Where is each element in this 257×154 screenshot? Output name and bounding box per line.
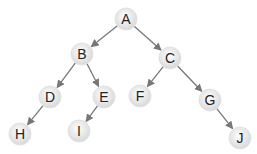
node-label: D [45,89,55,105]
tree-diagram: ABCDEFGHIJ [0,0,257,154]
tree-node-g: G [199,89,221,111]
node-label: I [77,123,81,139]
edge-e-i-arrow [86,106,97,121]
tree-node-d: D [39,86,61,108]
edge-d-h-arrow [28,106,44,125]
tree-node-j: J [229,127,251,149]
node-label: F [136,88,145,104]
tree-node-b: B [71,43,93,65]
tree-node-e: E [93,86,115,108]
tree-node-a: A [115,8,137,30]
edge-c-f-arrow [147,67,163,87]
nodes-layer: ABCDEFGHIJ [9,8,251,149]
node-label: C [165,50,175,66]
tree-node-h: H [9,123,31,145]
tree-node-i: I [68,120,90,142]
node-label: A [121,11,131,27]
node-label: B [77,46,86,62]
edges-layer [28,26,233,129]
edge-a-c-arrow [134,26,161,50]
tree-node-f: F [129,85,151,107]
node-label: H [15,126,25,142]
node-label: G [205,92,216,108]
edge-g-j-arrow [217,109,233,129]
edge-c-g-arrow [178,66,202,91]
edge-b-d-arrow [57,63,75,88]
edge-b-e-arrow [87,64,99,87]
node-label: E [99,89,108,105]
tree-node-c: C [159,47,181,69]
node-label: J [237,130,244,146]
edge-a-b-arrow [91,26,117,47]
